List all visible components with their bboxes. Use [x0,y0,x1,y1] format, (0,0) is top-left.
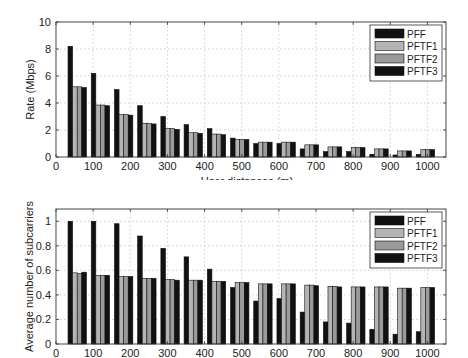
bar-pftf3 [151,278,156,344]
bar-pftf1 [305,285,310,344]
bar-pftf3 [291,142,296,157]
x-tick-label: 500 [233,160,251,172]
y-axis-label: Average number of subcarriers [23,201,35,352]
rate-chart: 010020030040050060070080090010000246810R… [0,0,468,180]
bar-pftf2 [402,288,407,344]
bar-pftf3 [82,87,87,157]
bar-pff [347,323,352,344]
x-tick-label: 800 [344,347,362,358]
x-tick-label: 200 [121,160,139,172]
legend-label: PFF [407,216,426,227]
bar-pftf2 [193,280,198,344]
bar-pftf1 [165,280,170,344]
bar-pftf3 [175,129,180,157]
bar-pff [370,329,375,344]
bar-pftf2 [147,278,152,344]
bar-pftf3 [128,115,133,157]
bar-pftf2 [77,87,82,157]
y-tick-label: 0 [45,151,51,163]
bar-pftf3 [337,147,342,157]
bar-pftf3 [268,142,273,157]
bar-pftf2 [309,145,314,157]
y-tick-label: 10 [39,16,51,28]
bar-pff [114,90,119,158]
x-tick-label: 1000 [415,347,439,358]
bar-pftf2 [124,114,129,157]
bar-pftf1 [119,277,124,345]
legend: PFFPFTF1PFTF2PFTF3 [370,212,442,268]
bar-pftf1 [142,278,147,344]
bar-pftf2 [379,287,384,344]
y-axis-label: Rate (Mbps) [24,59,36,120]
bar-pftf3 [128,277,133,345]
bar-pff [138,106,143,157]
x-tick-label: 100 [84,347,102,358]
bar-pftf3 [244,139,249,157]
x-tick-label: 600 [270,160,288,172]
x-tick-label: 200 [121,347,139,358]
bar-pftf3 [384,149,389,157]
bar-pftf1 [282,284,287,344]
bar-pftf1 [235,283,240,344]
bar-pftf1 [398,151,403,157]
bar-pff [300,312,305,344]
bar-pftf3 [407,288,412,344]
bar-pff [393,334,398,344]
bar-pftf1 [258,142,263,157]
bar-pftf2 [77,273,82,344]
bar-pftf3 [105,275,110,344]
bar-pftf1 [235,139,240,157]
bar-pftf2 [356,148,361,157]
subcarriers-chart: 0100200300400500600700800900100000.20.40… [0,180,468,358]
bar-pftf3 [430,288,435,344]
bar-pff [68,221,73,344]
bar-pftf1 [189,133,194,157]
bar-pftf1 [212,134,217,157]
bar-pff [254,301,259,344]
bar-pftf2 [263,142,268,157]
bar-pftf3 [221,281,226,344]
legend-label: PFTF2 [407,241,438,252]
x-tick-label: 100 [84,160,102,172]
subcarriers-chart-svg: 0100200300400500600700800900100000.20.40… [0,180,468,358]
bar-pftf1 [282,142,287,157]
bar-pftf3 [198,280,203,344]
bar-pff [91,73,96,157]
bar-pftf1 [328,286,333,344]
y-tick-label: 0.2 [36,313,51,325]
legend-swatch [375,54,404,63]
x-tick-label: 0 [53,347,59,358]
x-tick-label: 1000 [415,160,439,172]
x-tick-label: 900 [381,347,399,358]
bar-pftf3 [268,284,273,344]
bar-pftf1 [73,273,78,344]
y-tick-label: 1 [45,215,51,227]
bar-pff [323,322,328,344]
y-tick-label: 4 [45,97,51,109]
x-tick-label: 400 [195,160,213,172]
y-tick-label: 6 [45,70,51,82]
rate-chart-svg: 010020030040050060070080090010000246810R… [0,0,468,180]
bar-pff [231,288,236,344]
bar-pftf1 [374,287,379,344]
legend-swatch [375,216,404,225]
bar-pftf2 [240,283,245,344]
legend-swatch [375,42,404,51]
bar-pff [91,221,96,344]
bar-pftf2 [402,151,407,157]
legend-swatch [375,241,404,250]
bar-pftf3 [384,287,389,344]
bar-pff [184,257,189,344]
bar-pftf2 [263,284,268,344]
bar-pftf1 [119,114,124,157]
legend-label: PFTF1 [407,228,438,239]
bar-pftf1 [328,147,333,157]
bar-pftf2 [217,281,222,344]
y-tick-label: 0.4 [36,289,51,301]
x-tick-label: 0 [53,160,59,172]
bar-pftf3 [360,148,365,157]
legend-label: PFTF1 [407,41,438,52]
legend-swatch [375,254,404,263]
bar-pftf3 [360,287,365,344]
bar-pff [114,224,119,344]
